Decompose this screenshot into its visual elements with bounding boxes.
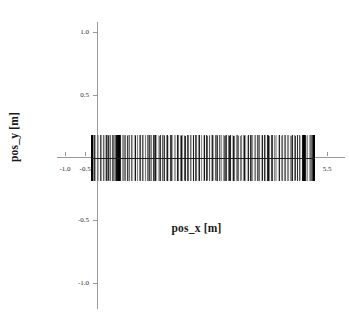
- y-tick-label: -1.0: [63, 279, 89, 287]
- x-tick-mark: [327, 152, 328, 156]
- y-axis-title: pos_y [m]: [8, 97, 20, 177]
- y-tick-mark: [93, 32, 97, 33]
- x-tick-label: -1.0: [59, 165, 70, 173]
- y-tick-mark: [93, 95, 97, 96]
- y-tick-mark: [93, 283, 97, 284]
- x-tick-mark: [85, 152, 86, 156]
- zero-line-overlay: [91, 158, 315, 159]
- x-tick-label: 5.5: [323, 165, 332, 173]
- x-tick-mark: [65, 152, 66, 156]
- x-axis-title: pos_x [m]: [0, 222, 349, 234]
- x-tick-label: -0.5: [80, 165, 91, 173]
- chart-figure: -1.0-0.50.51.01.52.02.53.03.54.04.55.05.…: [0, 0, 349, 320]
- y-tick-label: 0.5: [63, 91, 89, 99]
- y-tick-label: 1.0: [63, 28, 89, 36]
